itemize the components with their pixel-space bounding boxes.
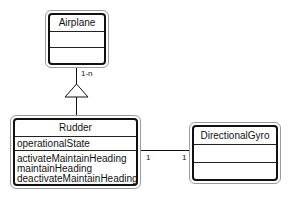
class-airplane-frame: Airplane [48,13,106,65]
class-rudder[interactable]: Rudder operationalState activateMaintain… [10,115,141,189]
class-directionalgyro-frame: DirectionalGyro [192,125,278,181]
generalization-arrowhead-icon [65,84,88,97]
generalization-multiplicity-label: 1-n [81,70,93,78]
rudder-operation: deactivateMaintainHeading [15,174,136,184]
class-airplane-attributes [50,31,104,47]
association-multiplicity-rudder: 1 [146,154,150,162]
class-rudder-operations: activateMaintainHeading maintainHeading … [15,150,136,184]
class-airplane-name: Airplane [50,15,104,31]
class-airplane[interactable]: Airplane [45,10,109,68]
class-rudder-attributes: operationalState [15,136,136,150]
association-multiplicity-gyro: 1 [182,154,186,162]
rudder-attribute: operationalState [15,139,136,149]
class-directionalgyro[interactable]: DirectionalGyro [189,122,281,184]
class-rudder-frame: Rudder operationalState activateMaintain… [13,118,138,186]
class-directionalgyro-operations [194,162,276,179]
class-directionalgyro-attributes [194,144,276,162]
class-rudder-name: Rudder [15,120,136,136]
class-directionalgyro-name: DirectionalGyro [194,127,276,144]
class-airplane-operations [50,47,104,63]
